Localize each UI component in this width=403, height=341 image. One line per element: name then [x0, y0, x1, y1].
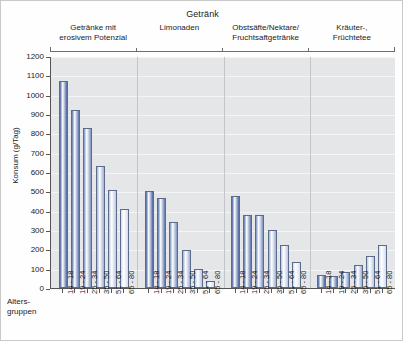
y-axis-tick: [46, 134, 50, 135]
y-axis-tick-label: 100: [8, 265, 44, 274]
y-axis-tick-label: 1000: [8, 91, 44, 100]
x-axis-tick-label: 35 - 50: [93, 293, 105, 337]
y-axis-tick-label: 1200: [8, 52, 44, 61]
x-axis-tick-label: 65 - 80: [376, 293, 388, 337]
x-label-group: 14 - 1819 - 2425 - 3435 - 5051 - 6465 - …: [50, 293, 136, 337]
x-axis-tick-label: 65 - 80: [290, 293, 302, 337]
y-axis-tick: [46, 173, 50, 174]
y-axis-tick: [46, 212, 50, 213]
y-axis-tick-label: 1100: [8, 71, 44, 80]
x-axis-tick-label: 35 - 50: [179, 293, 191, 337]
chart-figure: Getränk Getränke mit erosivem Potenzial …: [0, 0, 403, 341]
x-axis-tick-label: 51 - 64: [278, 293, 290, 337]
x-axis-tick-label: 19 - 24: [241, 293, 253, 337]
x-axis-tick-label: 25 - 34: [81, 293, 93, 337]
x-axis-tick-label: 19 - 24: [69, 293, 81, 337]
y-axis-tick: [46, 270, 50, 271]
x-axis-labels: 14 - 1819 - 2425 - 3435 - 5051 - 6465 - …: [50, 293, 395, 337]
x-axis-tick-label: 65 - 80: [118, 293, 130, 337]
y-axis-tick-label: 800: [8, 129, 44, 138]
group-separator-tick: [222, 48, 223, 52]
y-axis-tick: [46, 231, 50, 232]
group-separator-tick: [394, 47, 395, 52]
x-axis-tick-label: 19 - 24: [328, 293, 340, 337]
y-axis-tick: [46, 96, 50, 97]
x-axis-tick-label: 35 - 50: [352, 293, 364, 337]
x-axis-tick-label: 51 - 64: [364, 293, 376, 337]
group-separator-tick: [136, 48, 137, 52]
y-axis-tick-label: 900: [8, 110, 44, 119]
y-axis-tick-label: 200: [8, 245, 44, 254]
group-header-row: Getränke mit erosivem Potenzial Limonade…: [50, 23, 395, 49]
group-header-label: Limonaden: [136, 23, 222, 49]
x-axis-tick-label: 35 - 50: [266, 293, 278, 337]
x-label-group: 14 - 1819 - 2425 - 3435 - 5051 - 6465 - …: [223, 293, 309, 337]
x-axis-tick-label: 19 - 24: [155, 293, 167, 337]
y-axis-tick-label: 600: [8, 168, 44, 177]
group-header-label: Kräuter-, Früchtetee: [309, 23, 395, 49]
x-axis-tick-label: 14 - 18: [229, 293, 241, 337]
y-axis-tick-label: 700: [8, 149, 44, 158]
y-axis-tick-label: 500: [8, 187, 44, 196]
x-axis-tick-label: 51 - 64: [105, 293, 117, 337]
y-axis-tick: [46, 192, 50, 193]
x-label-group: 14 - 1819 - 2425 - 3435 - 5051 - 6465 - …: [309, 293, 395, 337]
y-axis-tick: [46, 57, 50, 58]
y-axis-tick: [46, 154, 50, 155]
y-axis-tick: [46, 250, 50, 251]
x-axis-tick-label: 14 - 18: [57, 293, 69, 337]
group-separator-tick: [50, 47, 51, 52]
x-label-group: 14 - 1819 - 2425 - 3435 - 5051 - 6465 - …: [136, 293, 222, 337]
y-axis-tick-label: 0: [8, 284, 44, 293]
x-axis-tick-label: 65 - 80: [204, 293, 216, 337]
chart-header-title: Getränk: [1, 9, 403, 19]
x-axis-title: Alters- gruppen: [7, 297, 53, 317]
group-header-label: Obstsäfte/Nektare/ Fruchtsaftgetränke: [223, 23, 309, 49]
x-axis-tick-label: 51 - 64: [192, 293, 204, 337]
group-header-label: Getränke mit erosivem Potenzial: [50, 23, 136, 49]
x-axis-tick-label: 25 - 34: [167, 293, 179, 337]
y-axis-tick-label: 400: [8, 207, 44, 216]
y-axis-tick: [46, 115, 50, 116]
x-axis-tick-label: 25 - 34: [340, 293, 352, 337]
y-axis-tick: [46, 76, 50, 77]
y-axis-tick-label: 300: [8, 226, 44, 235]
x-axis-tick-label: 14 - 18: [315, 293, 327, 337]
x-axis-tick-label: 25 - 34: [253, 293, 265, 337]
group-separator-tick: [308, 48, 309, 52]
x-axis-tick-label: 14 - 18: [143, 293, 155, 337]
